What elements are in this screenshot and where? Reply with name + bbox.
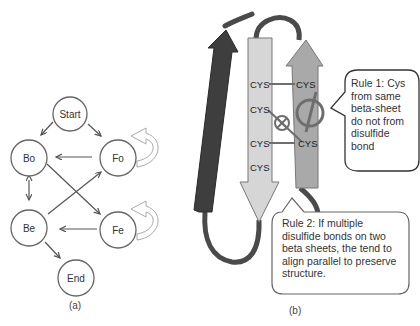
edge-bo-fe [47,164,100,214]
node-fe-label: Fe [112,225,124,236]
light-beta-strand [240,38,279,222]
bottom-loop [205,212,259,262]
node-start-label: Start [59,109,80,120]
cys-left-3: CYS [250,138,270,149]
edge-start-bo [41,122,53,135]
panel-a-caption: (a) [69,300,81,311]
callout-1-text: Rule 1: Cys from same beta-sheet do not … [351,77,415,152]
top-loop-right [256,18,299,40]
edge-start-fo [88,124,101,136]
node-bo-label: Bo [23,153,36,164]
node-be-label: Be [23,223,36,234]
cys-right-1: CYS [296,79,316,90]
cys-right-2: CYS [298,138,318,149]
dark-beta-strand [194,30,238,212]
mid-beta-strand [286,40,323,188]
node-end-label: End [67,273,85,284]
edge-be-end [45,242,60,258]
node-fo-label: Fo [112,153,124,164]
callout-2-text: Rule 2: If multiple disulfide bonds on t… [282,217,404,280]
cys-left-4: CYS [250,162,270,173]
state-diagram: Start Bo Fo Be Fe End (a) [11,97,158,311]
cys-left-1: CYS [250,79,270,90]
panel-b-caption: (b) [289,305,301,316]
top-loop-left [225,14,252,26]
cys-left-2: CYS [250,104,270,115]
